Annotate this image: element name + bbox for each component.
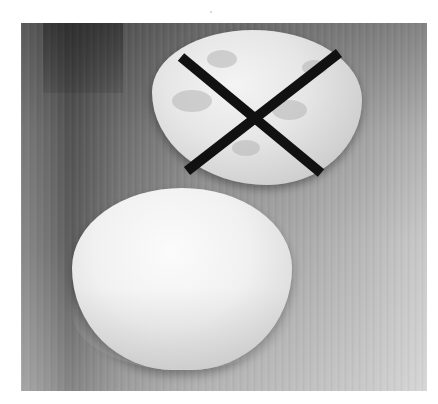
smooth-dough-disk (72, 188, 292, 370)
dough-photo: Two balls of pastry dough on a wooden su… (21, 23, 427, 391)
stray-speck (210, 11, 212, 13)
